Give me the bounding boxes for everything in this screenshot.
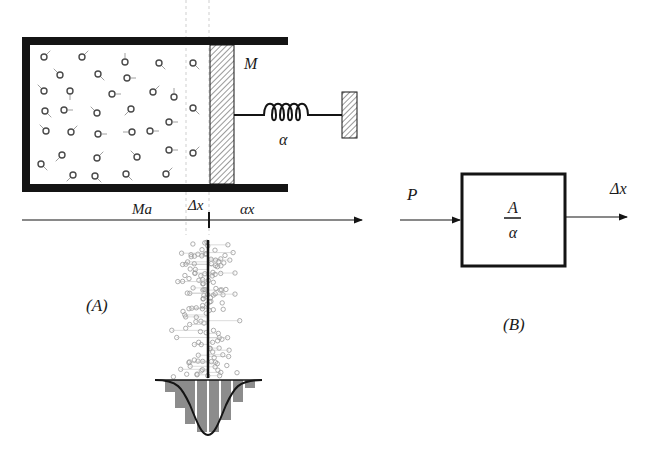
cylinder-top-wall xyxy=(22,37,288,45)
gas-particle xyxy=(147,128,153,134)
gas-particle xyxy=(42,108,48,114)
gas-particle xyxy=(38,161,44,167)
velocity-vector xyxy=(168,168,172,172)
velocity-vector xyxy=(128,176,132,180)
axis-label-ma: Ma xyxy=(131,201,152,217)
scatter-point xyxy=(223,253,227,257)
gas-particle xyxy=(122,59,128,65)
velocity-vector xyxy=(43,166,47,170)
gas-particle xyxy=(57,72,63,78)
scatter-point xyxy=(212,355,216,359)
velocity-vector xyxy=(131,151,135,155)
scatter-point xyxy=(185,372,189,376)
panel-a-caption: (A) xyxy=(86,296,108,315)
scatter-point xyxy=(183,273,187,277)
velocity-vector xyxy=(155,86,159,90)
gas-particle xyxy=(70,172,76,178)
gas-particle xyxy=(61,107,67,113)
scatter-point xyxy=(184,326,188,330)
velocity-vector xyxy=(91,107,95,111)
velocity-vector xyxy=(97,178,101,182)
gas-particle xyxy=(190,60,196,66)
scatter-point xyxy=(187,276,191,280)
velocity-vector xyxy=(73,126,77,130)
gas-particle xyxy=(150,89,156,95)
spring xyxy=(234,104,342,121)
transfer-function-block xyxy=(462,174,565,266)
velocity-vector xyxy=(84,51,88,55)
gas-particle xyxy=(59,152,65,158)
scatter-point xyxy=(224,287,228,291)
cylinder-bottom-wall xyxy=(22,184,288,192)
displacement-histogram xyxy=(155,380,262,435)
spring-constant-label: α xyxy=(279,131,288,148)
scatter-point xyxy=(219,271,223,275)
transfer-numerator: A xyxy=(507,199,518,216)
scatter-point xyxy=(191,242,195,246)
gas-particle xyxy=(94,110,100,116)
gas-particle xyxy=(67,88,73,94)
scatter-point xyxy=(225,363,229,367)
gas-particle xyxy=(166,119,172,125)
velocity-vector xyxy=(46,51,50,55)
scatter-point xyxy=(222,261,226,265)
scatter-point xyxy=(209,359,213,363)
gas-particle xyxy=(190,105,196,111)
velocity-vector xyxy=(125,111,129,115)
velocity-vector xyxy=(38,85,42,89)
velocity-vector xyxy=(100,76,104,80)
scatter-point xyxy=(220,301,224,305)
cylinder-left-wall xyxy=(22,37,30,192)
scatter-point xyxy=(221,307,225,311)
gas-particle xyxy=(190,150,196,156)
gas-particle xyxy=(171,94,177,100)
scatter-point xyxy=(211,328,215,332)
fixed-wall xyxy=(342,92,357,138)
gas-particle xyxy=(41,88,47,94)
gas-particle xyxy=(92,173,98,179)
scatter-point xyxy=(200,303,204,307)
gas-particle xyxy=(79,54,85,60)
gas-particle xyxy=(41,54,47,60)
fluctuation-scatter xyxy=(170,240,242,379)
input-label-pressure: P xyxy=(406,185,417,204)
panel-b-caption: (B) xyxy=(503,315,525,334)
gas-particle xyxy=(156,60,162,66)
axis-label-alpha-x: αx xyxy=(240,201,255,217)
gas-particle xyxy=(124,75,130,81)
scatter-point xyxy=(192,262,196,266)
gas-particle xyxy=(163,171,169,177)
gas-particle xyxy=(109,91,115,97)
scatter-point xyxy=(211,280,215,284)
piston xyxy=(210,45,234,184)
velocity-vector xyxy=(195,110,199,114)
velocity-vector xyxy=(56,157,60,161)
gas-particle xyxy=(95,71,101,77)
gas-particle xyxy=(94,155,100,161)
velocity-vector xyxy=(67,177,71,181)
piston-mass-label: M xyxy=(243,55,259,72)
output-label-delta-x: Δx xyxy=(609,180,627,197)
axis-label-delta-x: Δx xyxy=(187,197,204,213)
velocity-vector xyxy=(47,113,51,117)
gas-particle xyxy=(134,154,140,160)
velocity-vector xyxy=(99,152,103,156)
velocity-vector xyxy=(40,125,44,129)
velocity-vector xyxy=(195,147,199,151)
scatter-point xyxy=(188,267,192,271)
gas-particle xyxy=(68,129,74,135)
velocity-vector xyxy=(54,69,58,73)
scatter-point xyxy=(235,371,239,375)
transfer-denominator: α xyxy=(509,224,518,241)
gas-particles xyxy=(38,51,200,183)
diagram-canvas: M α Ma Δx αx (A) P A α Δx xyxy=(0,0,652,452)
panel-b: P A α Δx (B) xyxy=(400,174,627,334)
gas-particle xyxy=(129,129,135,135)
histogram-bar xyxy=(185,380,195,424)
gas-particle xyxy=(128,106,134,112)
velocity-vector xyxy=(195,65,199,69)
velocity-vector xyxy=(161,65,165,69)
scatter-point xyxy=(200,248,204,252)
scatter-point xyxy=(209,257,213,261)
gas-particle xyxy=(95,131,101,137)
